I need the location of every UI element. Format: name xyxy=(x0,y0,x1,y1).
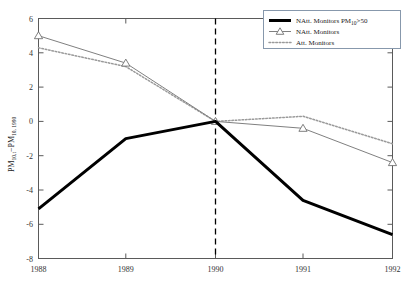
line-chart: 6 4 2 0 -2 -4 -6 -8 1988 1989 1990 1991 … xyxy=(0,0,413,292)
y-tick-label: 0 xyxy=(29,117,33,126)
legend-label-att-monitors: Att. Monitors xyxy=(296,39,334,47)
figure-container: 6 4 2 0 -2 -4 -6 -8 1988 1989 1990 1991 … xyxy=(0,0,413,292)
legend-label-natt-monitors-pm10-gt50: NAtt. Monitors PM10>50 xyxy=(296,17,368,26)
x-tick-label: 1989 xyxy=(118,265,134,274)
legend-label-natt-monitors: NAtt. Monitors xyxy=(296,28,339,36)
x-tick-label: 1992 xyxy=(385,265,401,274)
y-tick-label: 4 xyxy=(29,49,33,58)
y-tick-label: -8 xyxy=(26,255,33,264)
y-tick-label: -2 xyxy=(26,152,33,161)
y-tick-label: -4 xyxy=(26,186,33,195)
x-tick-label: 1990 xyxy=(208,265,224,274)
legend-label-prefix: NAtt. Monitors PM xyxy=(296,17,352,25)
x-tick-label: 1988 xyxy=(31,265,47,274)
y-axis-title-base1: PM xyxy=(7,160,16,172)
y-tick-label: 6 xyxy=(29,15,33,24)
legend-label-suffix: >50 xyxy=(357,17,368,25)
y-axis-title-sub2: 10, 1990 xyxy=(11,116,17,136)
y-tick-label: -6 xyxy=(26,220,33,229)
y-tick-label: 2 xyxy=(29,83,33,92)
y-axis-title-base2: PM xyxy=(7,136,16,148)
x-tick-label: 1991 xyxy=(295,265,311,274)
legend[interactable]: NAtt. Monitors PM10>50 NAtt. Monitors At… xyxy=(264,11,401,49)
